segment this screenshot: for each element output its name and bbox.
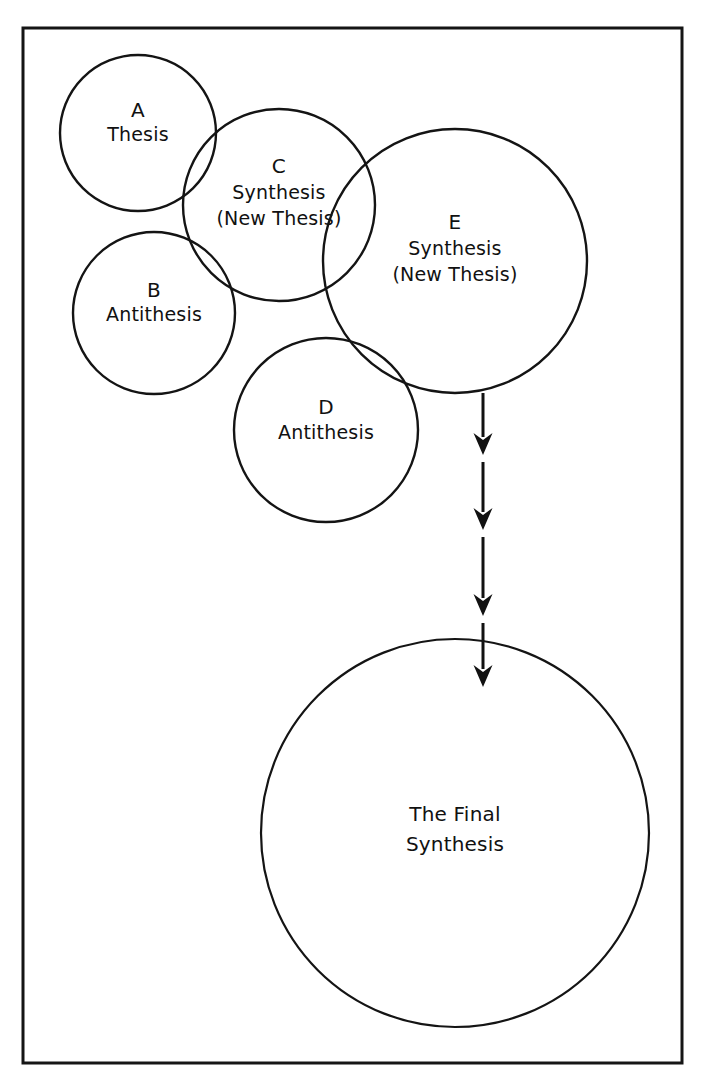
dialectic-diagram: AThesisBAntithesisCSynthesis(New Thesis)…: [0, 0, 704, 1082]
outer-border: [23, 28, 682, 1063]
circle-a-thesis: AThesis: [60, 55, 216, 211]
circle-d-antithesis: DAntithesis: [234, 338, 418, 522]
circle-e-synthesis-label-2: (New Thesis): [392, 263, 517, 285]
circle-d-antithesis-letter: D: [318, 395, 334, 419]
circle-e-synthesis: ESynthesis(New Thesis): [323, 129, 587, 393]
circle-a-thesis-letter: A: [131, 98, 145, 122]
circle-c-synthesis: CSynthesis(New Thesis): [183, 109, 375, 301]
circle-final-synthesis-label-2: Synthesis: [406, 832, 504, 856]
circle-b-antithesis-label-1: Antithesis: [106, 303, 202, 325]
arrow-segment-2: [474, 462, 493, 530]
arrow-segment-3: [474, 537, 493, 616]
circle-e-synthesis-outline: [323, 129, 587, 393]
circle-b-antithesis-letter: B: [147, 278, 161, 302]
circle-c-synthesis-label-2: (New Thesis): [216, 207, 341, 229]
diagram-canvas: AThesisBAntithesisCSynthesis(New Thesis)…: [0, 0, 704, 1082]
circle-e-synthesis-letter: E: [449, 210, 462, 234]
circle-c-synthesis-letter: C: [272, 154, 286, 178]
arrow-segment-4: [474, 623, 493, 687]
circle-c-synthesis-outline: [183, 109, 375, 301]
circle-b-antithesis: BAntithesis: [73, 232, 235, 394]
circle-c-synthesis-label-1: Synthesis: [232, 181, 325, 203]
arrow-segment-1: [474, 393, 493, 455]
circle-a-thesis-label-1: Thesis: [106, 123, 169, 145]
circle-final-synthesis-label-1: The Final: [408, 802, 500, 826]
circle-final-synthesis: The FinalSynthesis: [261, 639, 649, 1027]
final-synthesis-group: The FinalSynthesis: [261, 639, 649, 1027]
circle-e-synthesis-label-1: Synthesis: [408, 237, 501, 259]
circle-d-antithesis-label-1: Antithesis: [278, 421, 374, 443]
circles-layer: AThesisBAntithesisCSynthesis(New Thesis)…: [60, 55, 587, 522]
